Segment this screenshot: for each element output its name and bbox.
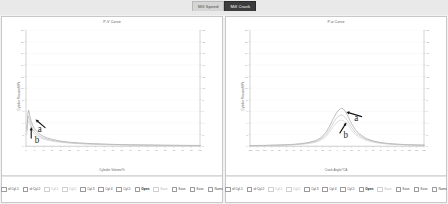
legend-pv-item[interactable]: Name: [208, 187, 223, 192]
svg-text:4: 4: [203, 122, 205, 124]
svg-text:-70: -70: [285, 149, 289, 151]
legend-checkbox[interactable]: [322, 187, 327, 192]
legend-p-alpha-item[interactable]: Open: [359, 187, 374, 192]
legend-checkbox[interactable]: [340, 187, 345, 192]
svg-text:14: 14: [21, 64, 24, 66]
svg-text:0: 0: [22, 145, 24, 147]
legend-checkbox[interactable]: [396, 187, 401, 192]
legend-pv-item[interactable]: Save: [153, 187, 167, 192]
legend-checkbox[interactable]: [247, 187, 252, 192]
svg-text:14: 14: [203, 64, 206, 66]
legend-checkbox[interactable]: [1, 187, 6, 192]
svg-text:18: 18: [203, 41, 206, 43]
svg-text:55: 55: [120, 149, 123, 151]
legend-checkbox[interactable]: [286, 187, 291, 192]
svg-text:-20: -20: [321, 149, 325, 151]
application-window: Mill Speed Mill Crank P-V Curve Cylinder…: [0, 0, 448, 204]
svg-text:6: 6: [22, 110, 24, 112]
legend-label: Cyl.2: [293, 187, 300, 191]
svg-text:5: 5: [34, 149, 36, 151]
chart-pv-title: P-V Curve: [2, 20, 222, 24]
chart-pv-plot-area[interactable]: 0510152025303540455055606570758085909510…: [2, 26, 222, 161]
legend-pv-item[interactable]: Cyl.1: [44, 187, 58, 192]
svg-text:80: 80: [394, 149, 397, 151]
legend-p-alpha-item[interactable]: Name: [432, 187, 447, 192]
legend-label: of Cyl.2: [253, 187, 264, 191]
legend-checkbox[interactable]: [80, 187, 85, 192]
svg-text:50: 50: [112, 149, 115, 151]
legend-pv-item[interactable]: Save: [172, 187, 186, 192]
legend-p-alpha-item[interactable]: Cyl.5: [340, 187, 354, 192]
svg-text:2: 2: [427, 134, 429, 136]
legend-label: of Cyl.2: [29, 187, 40, 191]
legend-checkbox[interactable]: [116, 187, 121, 192]
svg-text:-30: -30: [314, 149, 318, 151]
legend-p-alpha-item[interactable]: of Cyl.1: [225, 187, 243, 192]
legend-checkbox[interactable]: [153, 187, 158, 192]
legend-pv-item[interactable]: Cyl.3: [80, 187, 94, 192]
legend-checkbox[interactable]: [359, 187, 364, 192]
legend-pv-item[interactable]: Open: [135, 187, 150, 192]
legend-checkbox[interactable]: [23, 187, 28, 192]
legend-checkbox[interactable]: [432, 187, 437, 192]
legend-checkbox[interactable]: [304, 187, 309, 192]
svg-text:20: 20: [21, 29, 24, 31]
svg-text:2: 2: [22, 134, 24, 136]
legend-checkbox[interactable]: [62, 187, 67, 192]
legend-checkbox[interactable]: [190, 187, 195, 192]
legend-pv-item[interactable]: Save: [190, 187, 204, 192]
svg-text:95: 95: [190, 149, 193, 151]
svg-text:0: 0: [246, 145, 248, 147]
svg-text:18: 18: [21, 41, 24, 43]
svg-text:-120: -120: [248, 149, 253, 151]
legend-label: Cyl.1: [51, 187, 58, 191]
legend-p-alpha-item[interactable]: Save: [396, 187, 410, 192]
tab-bar: Mill Speed Mill Crank: [0, 0, 448, 16]
legend-label: Save: [402, 187, 409, 191]
svg-text:20: 20: [203, 29, 206, 31]
chart-pv: P-V Curve Cylinder Pressure/MPa 05101520…: [2, 17, 222, 176]
svg-text:16: 16: [245, 52, 248, 54]
svg-text:b: b: [35, 135, 40, 145]
svg-text:6: 6: [246, 110, 248, 112]
svg-text:0: 0: [203, 145, 205, 147]
legend-p-alpha-item[interactable]: of Cyl.2: [247, 187, 265, 192]
svg-text:10: 10: [42, 149, 45, 151]
legend-checkbox[interactable]: [268, 187, 273, 192]
svg-text:65: 65: [138, 149, 141, 151]
legend-checkbox[interactable]: [377, 187, 382, 192]
svg-text:10: 10: [203, 87, 206, 89]
legend-checkbox[interactable]: [208, 187, 213, 192]
svg-text:14: 14: [427, 64, 430, 66]
tab-mill-crank[interactable]: Mill Crank: [224, 1, 256, 11]
legend-checkbox[interactable]: [414, 187, 419, 192]
legend-p-alpha-item[interactable]: Save: [414, 187, 428, 192]
tab-mill-speed[interactable]: Mill Speed: [192, 1, 225, 11]
svg-text:40: 40: [94, 149, 97, 151]
legend-pv-item[interactable]: of Cyl.1: [1, 187, 19, 192]
legend-checkbox[interactable]: [44, 187, 49, 192]
svg-text:2: 2: [203, 134, 205, 136]
legend-p-alpha-item[interactable]: Cyl.4: [322, 187, 336, 192]
svg-text:-40: -40: [306, 149, 310, 151]
legend-pv-item[interactable]: Cyl.2: [62, 187, 76, 192]
legend-checkbox[interactable]: [98, 187, 103, 192]
legend-pv-item[interactable]: Cyl.4: [98, 187, 112, 192]
legend-p-alpha-item[interactable]: Cyl.2: [286, 187, 300, 192]
legend-label: Open: [365, 187, 373, 191]
svg-text:110: 110: [415, 149, 419, 151]
svg-text:a: a: [38, 124, 42, 134]
svg-text:-60: -60: [292, 149, 296, 151]
legend-p-alpha-item[interactable]: Cyl.3: [304, 187, 318, 192]
chart-p-alpha-plot-area[interactable]: -120-110-100-90-80-70-60-50-40-30-20-100…: [226, 26, 446, 161]
legend-p-alpha-item[interactable]: Cyl.1: [268, 187, 282, 192]
legend-checkbox[interactable]: [172, 187, 177, 192]
svg-text:70: 70: [387, 149, 390, 151]
legend-pv-item[interactable]: Cyl.5: [116, 187, 130, 192]
legend-p-alpha-item[interactable]: Save: [377, 187, 391, 192]
legend-checkbox[interactable]: [225, 187, 230, 192]
legend-pv-item[interactable]: of Cyl.2: [23, 187, 41, 192]
legend-label: Cyl.3: [311, 187, 318, 191]
tab-mill-speed-label: Mill Speed: [198, 2, 219, 11]
legend-checkbox[interactable]: [135, 187, 140, 192]
